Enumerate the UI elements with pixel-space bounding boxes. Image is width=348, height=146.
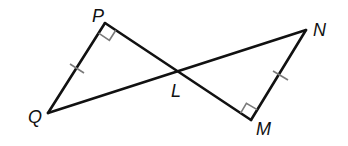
geometry-diagram: P Q L N M <box>0 0 348 146</box>
right-angle-marker-P <box>99 30 116 40</box>
label-M: M <box>256 119 271 139</box>
label-N: N <box>313 20 327 40</box>
label-P: P <box>92 6 104 26</box>
label-L: L <box>171 81 181 101</box>
label-Q: Q <box>28 107 42 127</box>
